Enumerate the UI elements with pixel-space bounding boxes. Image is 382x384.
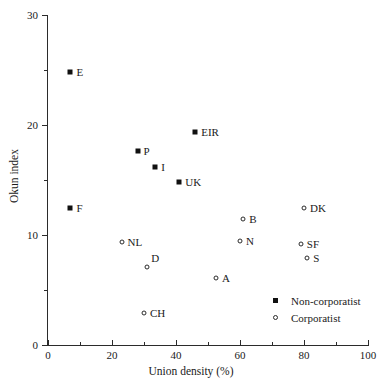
chart-legend: Non-corporatistCorporatist [268, 292, 361, 326]
legend-marker-glyph [273, 315, 278, 320]
data-point-label-s: S [313, 253, 319, 264]
legend-marker-glyph [273, 298, 278, 303]
data-point-n [238, 238, 243, 243]
data-point-label-f: F [76, 203, 82, 214]
y-tick-label: 30 [12, 10, 38, 21]
data-point-label-i: I [161, 162, 165, 173]
legend-item-corporatist[interactable]: Corporatist [268, 309, 361, 326]
legend-label: Non-corporatist [291, 295, 361, 307]
data-point-e [68, 70, 73, 75]
data-point-label-e: E [76, 67, 83, 78]
data-point-d [145, 264, 150, 269]
x-tick-label: 0 [33, 350, 63, 361]
data-point-label-sf: SF [307, 239, 319, 250]
data-point-a [214, 275, 219, 280]
data-point-label-dk: DK [310, 203, 326, 214]
data-point-nl [119, 239, 124, 244]
data-point-sf [298, 241, 303, 246]
x-tick-label: 80 [289, 350, 319, 361]
data-point-label-nl: NL [128, 237, 143, 248]
data-point-label-uk: UK [185, 177, 201, 188]
data-point-label-eir: EIR [201, 127, 219, 138]
x-axis-title: Union density (%) [0, 365, 382, 377]
legend-label: Corporatist [291, 312, 341, 324]
y-tick-label: 10 [12, 230, 38, 241]
x-tick-label: 60 [225, 350, 255, 361]
x-tick-label: 20 [97, 350, 127, 361]
scatter-chart: 0204060801000102030 Union density (%) Ok… [0, 0, 382, 384]
data-point-b [241, 216, 246, 221]
y-tick [42, 345, 48, 346]
legend-item-non-corporatist[interactable]: Non-corporatist [268, 292, 361, 309]
data-point-f [68, 205, 73, 210]
data-point-i [153, 164, 158, 169]
open-circle-icon [268, 315, 282, 320]
data-point-p [135, 149, 140, 154]
y-axis-title: Okun index [8, 126, 20, 226]
data-point-eir [193, 129, 198, 134]
data-point-label-a: A [222, 273, 230, 284]
x-tick-label: 40 [161, 350, 191, 361]
x-tick-label: 100 [353, 350, 382, 361]
y-tick-label: 0 [12, 340, 38, 351]
data-point-label-n: N [246, 236, 254, 247]
filled-square-icon [268, 298, 282, 303]
data-point-ch [142, 311, 147, 316]
data-point-s [305, 256, 310, 261]
data-point-label-d: D [151, 253, 159, 264]
data-point-label-p: P [144, 146, 150, 157]
data-point-label-ch: CH [150, 308, 165, 319]
data-point-label-b: B [249, 214, 256, 225]
data-point-dk [302, 205, 307, 210]
data-point-uk [177, 180, 182, 185]
x-tick [368, 340, 369, 346]
